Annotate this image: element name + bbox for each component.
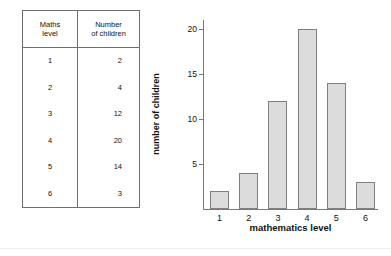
- y-axis-tick: [199, 74, 203, 75]
- cell-number-of-children: 12: [78, 101, 139, 128]
- bar: [356, 182, 375, 209]
- plot-area: 5101520 123456: [203, 20, 378, 209]
- column-header-maths-level: Maths level: [23, 11, 78, 48]
- x-axis-title: mathematics level: [203, 222, 378, 233]
- y-axis-tick-label: 10: [179, 114, 197, 124]
- cell-maths-level: 3: [23, 101, 78, 128]
- cell-maths-level: 2: [23, 74, 78, 101]
- table-row: 4 20: [23, 127, 139, 154]
- bar: [268, 101, 287, 209]
- cell-maths-level: 4: [23, 127, 78, 154]
- y-axis-tick: [199, 164, 203, 165]
- footer-divider: [0, 248, 391, 249]
- y-axis-tick-label: 5: [179, 159, 197, 169]
- cell-maths-level: 1: [23, 48, 78, 75]
- bar: [327, 83, 346, 209]
- column-header-number-of-children-line2: of children: [78, 29, 139, 38]
- table-body: 1 2 2 4 3 12 4 20 5 14: [23, 48, 139, 208]
- table-row: 3 12: [23, 101, 139, 128]
- table-row: 1 2: [23, 48, 139, 75]
- bar-chart: number of children 5101520 123456 mathem…: [150, 6, 385, 251]
- table-row: 5 14: [23, 154, 139, 181]
- column-header-number-of-children: Number of children: [78, 11, 139, 48]
- cell-maths-level: 6: [23, 180, 78, 207]
- x-axis-line: [203, 209, 378, 210]
- column-header-maths-level-line1: Maths: [23, 20, 77, 29]
- cell-number-of-children: 14: [78, 154, 139, 181]
- y-axis-tick: [199, 119, 203, 120]
- bar: [210, 191, 229, 209]
- table-header: Maths level Number of children: [23, 11, 139, 48]
- table-row: 6 3: [23, 180, 139, 207]
- y-axis-line: [203, 20, 204, 209]
- cell-number-of-children: 4: [78, 74, 139, 101]
- table-row: 2 4: [23, 74, 139, 101]
- cell-maths-level: 5: [23, 154, 78, 181]
- cell-number-of-children: 2: [78, 48, 139, 75]
- y-axis-tick-label: 20: [179, 24, 197, 34]
- table-header-row: Maths level Number of children: [23, 11, 139, 48]
- cell-number-of-children: 20: [78, 127, 139, 154]
- column-header-maths-level-line2: level: [23, 29, 77, 38]
- page-root: Maths level Number of children 1 2 2 4: [0, 0, 391, 256]
- cell-number-of-children: 3: [78, 180, 139, 207]
- column-header-number-of-children-line1: Number: [78, 20, 139, 29]
- frequency-table: Maths level Number of children 1 2 2 4: [22, 10, 140, 208]
- bar: [239, 173, 258, 209]
- y-axis-tick-label: 15: [179, 69, 197, 79]
- bar: [298, 29, 317, 209]
- y-axis-title: number of children: [151, 73, 161, 155]
- y-axis-tick: [199, 29, 203, 30]
- table-grid: Maths level Number of children 1 2 2 4: [23, 11, 139, 207]
